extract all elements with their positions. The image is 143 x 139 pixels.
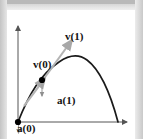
label-velocity-v0: v(0)	[33, 59, 51, 70]
label-velocity-v1: v(1)	[65, 31, 83, 42]
frame-left-edge	[0, 0, 7, 139]
frame-top-edge	[0, 0, 143, 4]
label-acceleration-a0: a(0)	[17, 123, 35, 134]
label-acceleration-a1: a(1)	[57, 95, 75, 106]
label-velocity-v0-text: v(0)	[33, 58, 51, 70]
label-acceleration-a1-text: a(1)	[57, 94, 75, 106]
label-velocity-v1-text: v(1)	[65, 30, 83, 42]
mid-point-marker	[39, 77, 45, 83]
frame-right-edge	[135, 0, 143, 139]
figure-frame: v(1) v(0) a(1) a(0)	[0, 0, 143, 139]
diagram-canvas: v(1) v(0) a(1) a(0)	[7, 10, 135, 139]
label-acceleration-a0-text: a(0)	[17, 122, 35, 134]
